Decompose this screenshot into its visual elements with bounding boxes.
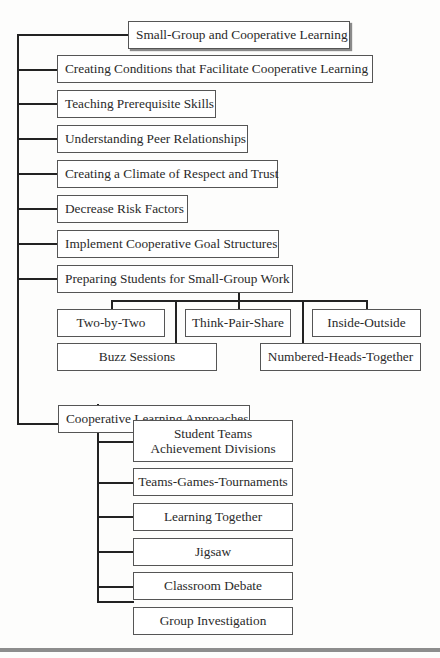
node-label: Jigsaw: [195, 544, 231, 559]
root-node: Small-Group and Cooperative Learning: [128, 21, 350, 49]
connector-ap-4: [97, 586, 134, 588]
node-label: Learning Together: [164, 509, 262, 524]
node-learning-together: Learning Together: [133, 503, 293, 531]
connector-ap-1: [97, 482, 134, 484]
node-creating-conditions: Creating Conditions that Facilitate Coop…: [57, 55, 373, 83]
prep-drop-inside-outside: [366, 300, 368, 309]
connector-l1-2: [17, 138, 58, 140]
node-two-by-two: Two-by-Two: [57, 309, 165, 337]
node-think-pair-share: Think-Pair-Share: [185, 309, 291, 337]
node-label: Teams-Games-Tournaments: [138, 474, 288, 489]
connector-l1-0: [17, 69, 58, 71]
node-label: Implement Cooperative Goal Structures: [65, 236, 277, 251]
connector-ap-5: [97, 601, 134, 603]
connector-l1-3: [17, 173, 58, 175]
node-label: Inside-Outside: [327, 315, 405, 330]
node-label: Preparing Students for Small-Group Work: [65, 271, 290, 286]
node-inside-outside: Inside-Outside: [312, 309, 421, 337]
connector-ap-3: [97, 551, 134, 553]
root-node-label: Small-Group and Cooperative Learning: [136, 27, 348, 42]
node-label: Buzz Sessions: [99, 349, 175, 364]
node-cooperative-goal-structures: Implement Cooperative Goal Structures: [57, 230, 279, 258]
node-stad: Student Teams Achievement Divisions: [133, 420, 293, 462]
node-numbered-heads-together: Numbered-Heads-Together: [260, 343, 421, 371]
node-label: Creating a Climate of Respect and Trust: [65, 166, 278, 181]
main-trunk-line: [17, 34, 19, 424]
prep-drop-buzz: [175, 300, 177, 343]
node-classroom-debate: Classroom Debate: [133, 572, 293, 600]
prep-drop-numbered: [302, 300, 304, 343]
node-label: Two-by-Two: [76, 315, 145, 330]
node-label: Numbered-Heads-Together: [268, 349, 413, 364]
connector-l1-1: [17, 103, 58, 105]
node-label: Group Investigation: [160, 613, 267, 628]
prep-drop-think-pair: [238, 300, 240, 309]
node-label: Teaching Prerequisite Skills: [65, 96, 214, 111]
node-buzz-sessions: Buzz Sessions: [57, 343, 217, 371]
connector-root: [17, 34, 129, 36]
node-label: Student Teams Achievement Divisions: [138, 426, 288, 457]
connector-l1-7: [17, 423, 58, 425]
node-preparing-students: Preparing Students for Small-Group Work: [57, 265, 293, 293]
node-label: Understanding Peer Relationships: [65, 131, 246, 146]
node-decrease-risk-factors: Decrease Risk Factors: [57, 195, 188, 223]
node-group-investigation: Group Investigation: [133, 607, 293, 635]
node-jigsaw: Jigsaw: [133, 538, 293, 566]
node-teams-games-tournaments: Teams-Games-Tournaments: [133, 468, 293, 496]
connector-l1-5: [17, 243, 58, 245]
node-label: Classroom Debate: [164, 578, 262, 593]
node-understanding-peer-relationships: Understanding Peer Relationships: [57, 125, 248, 153]
node-label: Decrease Risk Factors: [65, 201, 184, 216]
node-label: Creating Conditions that Facilitate Coop…: [65, 61, 368, 76]
bottom-rule: [0, 648, 440, 652]
node-label: Think-Pair-Share: [192, 315, 284, 330]
prep-drop-two-by-two: [111, 300, 113, 309]
node-climate-respect-trust: Creating a Climate of Respect and Trust: [57, 160, 278, 188]
connector-l1-6: [17, 278, 58, 280]
node-teaching-prerequisite-skills: Teaching Prerequisite Skills: [57, 90, 216, 118]
connector-ap-0: [97, 441, 134, 443]
approaches-trunk: [97, 404, 99, 602]
connector-l1-4: [17, 208, 58, 210]
connector-ap-2: [97, 516, 134, 518]
